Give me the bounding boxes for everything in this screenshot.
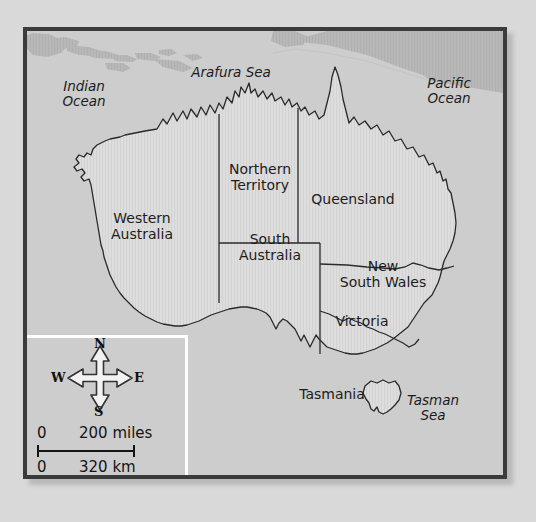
map-frame: Indian Ocean Arafura Sea Pacific Ocean T… [23,27,507,479]
scale-miles-value: 200 miles [79,424,152,442]
compass-rose: N S E W [39,340,161,422]
scale-bar: 0 200 miles 0 320 km [35,424,185,478]
compass-north-label: N [94,336,106,351]
scale-bar-ruler-icon [35,443,155,459]
compass-west-label: W [51,370,66,385]
australia-map-figure: Indian Ocean Arafura Sea Pacific Ocean T… [0,0,536,522]
map-legend-panel: N S E W 0 200 miles 0 320 km [27,335,188,475]
compass-south-label: S [94,404,103,419]
map-canvas: Indian Ocean Arafura Sea Pacific Ocean T… [27,31,503,475]
compass-east-label: E [134,370,144,385]
scale-miles-zero: 0 [37,424,47,442]
scale-km-value: 320 km [79,458,136,476]
scale-km-zero: 0 [37,458,47,476]
